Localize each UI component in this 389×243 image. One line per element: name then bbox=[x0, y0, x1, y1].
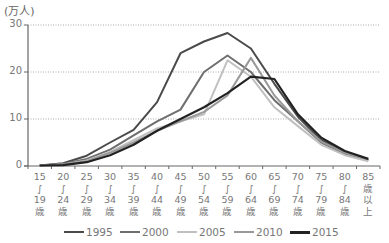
x-tick-label: 35∫39歳 bbox=[125, 171, 143, 217]
y-tick-label: 10 bbox=[2, 112, 22, 123]
line-chart: (万人) 0102030 15∫19歳20∫24歳25∫29歳30∫34歳35∫… bbox=[0, 0, 389, 243]
legend-swatch bbox=[290, 231, 310, 234]
legend-item-2010: 2010 bbox=[234, 226, 283, 238]
legend-item-1995: 1995 bbox=[64, 226, 113, 238]
series-line-2015 bbox=[40, 77, 369, 166]
x-tick-label: 65∫69歳 bbox=[265, 171, 283, 217]
x-tick-label: 20∫24歳 bbox=[54, 171, 72, 217]
legend: 19952000200520102015 bbox=[0, 226, 389, 242]
legend-label: 2005 bbox=[199, 226, 226, 238]
x-tick-label: 45∫49歳 bbox=[172, 171, 190, 217]
x-tick-label: 50∫54歳 bbox=[195, 171, 213, 217]
x-tick-label: 85歳以上 bbox=[359, 171, 377, 217]
series-line-2010 bbox=[40, 58, 369, 166]
legend-swatch bbox=[64, 231, 84, 233]
x-tick-label: 60∫64歳 bbox=[242, 171, 260, 217]
x-tick-label: 70∫74歳 bbox=[289, 171, 307, 217]
legend-item-2005: 2005 bbox=[177, 226, 226, 238]
legend-swatch bbox=[234, 231, 254, 233]
legend-swatch bbox=[120, 231, 140, 233]
x-tick-label: 55∫59歳 bbox=[218, 171, 236, 217]
y-tick-label: 30 bbox=[2, 18, 22, 29]
x-tick-label: 30∫34歳 bbox=[101, 171, 119, 217]
x-tick-label: 40∫44歳 bbox=[148, 171, 166, 217]
legend-label: 1995 bbox=[86, 226, 113, 238]
legend-item-2015: 2015 bbox=[290, 226, 339, 238]
legend-label: 2010 bbox=[256, 226, 283, 238]
series-line-1995 bbox=[40, 33, 369, 166]
x-tick-label: 80∫84歳 bbox=[336, 171, 354, 217]
legend-item-2000: 2000 bbox=[120, 226, 169, 238]
x-tick-label: 15∫19歳 bbox=[31, 171, 49, 217]
legend-label: 2000 bbox=[142, 226, 169, 238]
x-tick-label: 75∫79歳 bbox=[312, 171, 330, 217]
y-tick-label: 20 bbox=[2, 65, 22, 76]
x-tick-label: 25∫29歳 bbox=[78, 171, 96, 217]
legend-swatch bbox=[177, 231, 197, 233]
legend-label: 2015 bbox=[312, 226, 339, 238]
y-tick-label: 0 bbox=[2, 159, 22, 170]
